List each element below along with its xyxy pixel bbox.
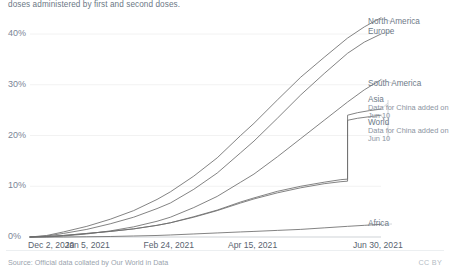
footer-divider — [6, 250, 444, 251]
series-line-world — [30, 115, 381, 237]
series-line-north-america — [30, 18, 381, 237]
y-tick-label-20: 20% — [8, 130, 26, 140]
series-label-south-america[interactable]: South America — [368, 79, 421, 88]
series-lines — [30, 18, 381, 237]
y-tick-label-10: 10% — [8, 180, 26, 190]
series-label-africa[interactable]: Africa — [368, 219, 389, 228]
y-tick-label-40: 40% — [8, 28, 26, 38]
chart-container: doses administered by first and second d… — [0, 0, 450, 274]
gridlines — [30, 34, 381, 237]
y-tick-label-0: 0% — [8, 231, 21, 241]
x-tick-label-3: Apr 15, 2021 — [228, 240, 277, 250]
footer-license[interactable]: CC BY — [419, 258, 442, 267]
footer-source: Source: Official data collated by Our Wo… — [8, 258, 168, 267]
series-annotation-world-line2[interactable]: Jun 10 — [368, 135, 390, 143]
y-tick-label-30: 30% — [8, 79, 26, 89]
series-line-africa — [30, 224, 381, 237]
series-line-asia — [30, 109, 381, 237]
series-label-europe[interactable]: Europe — [368, 27, 394, 36]
x-tick-label-4: Jun 30, 2021 — [353, 240, 403, 250]
x-tick-label-1: Jan 5, 2021 — [65, 240, 110, 250]
x-tick-label-2: Feb 24, 2021 — [143, 240, 194, 250]
series-label-north-america[interactable]: North America — [368, 17, 420, 26]
